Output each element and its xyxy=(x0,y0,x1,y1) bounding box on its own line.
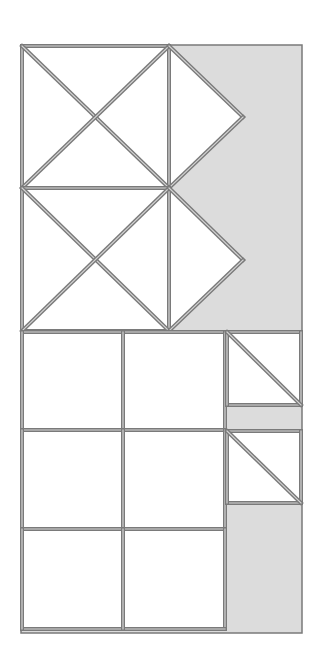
tiling-diagram xyxy=(0,0,321,663)
diagram-canvas xyxy=(0,0,321,663)
